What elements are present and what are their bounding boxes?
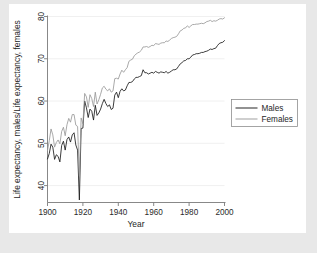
- x-tick-label-1940: 1940: [109, 208, 128, 217]
- x-tick-label-1920: 1920: [74, 208, 93, 217]
- x-tick-label-2000: 2000: [215, 208, 234, 217]
- x-tick-label-1900: 1900: [38, 208, 57, 217]
- y-tick-label-80: 80: [37, 12, 46, 22]
- chart-container: 4050607080190019201940196019802000YearLi…: [9, 4, 306, 233]
- y-tick-label-40: 40: [37, 181, 46, 191]
- x-tick-label-1980: 1980: [180, 208, 199, 217]
- x-axis-title: Year: [128, 219, 145, 229]
- plot-area-background: [48, 17, 225, 203]
- life-expectancy-line-chart: 4050607080190019201940196019802000YearLi…: [9, 4, 306, 233]
- x-tick-label-1960: 1960: [145, 208, 164, 217]
- legend-label-males: Males: [262, 104, 284, 113]
- y-tick-label-60: 60: [37, 96, 46, 106]
- y-tick-label-70: 70: [37, 54, 46, 64]
- legend-label-females: Females: [262, 115, 293, 124]
- y-axis-title: Life expectancy, males/Life expectancy, …: [12, 20, 22, 198]
- figure-canvas: 4050607080190019201940196019802000YearLi…: [9, 4, 306, 233]
- y-tick-label-50: 50: [37, 138, 46, 148]
